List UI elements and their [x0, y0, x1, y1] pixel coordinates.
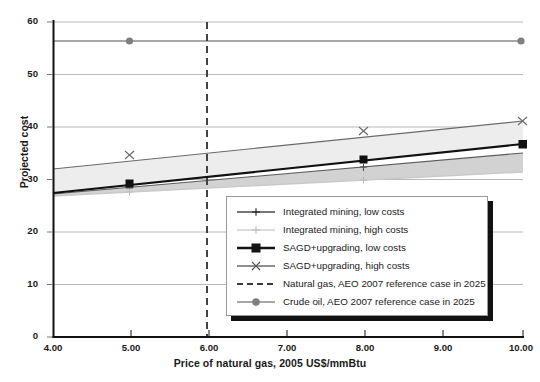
legend-key-line-square-black-icon	[235, 241, 277, 255]
legend-item-sagd-upgrading-low[interactable]: SAGD+upgrading, low costs	[227, 239, 487, 257]
legend-item-label: Natural gas, AEO 2007 reference case in …	[283, 279, 486, 289]
legend-item-label: Integrated mining, high costs	[283, 225, 408, 235]
legend-key-line-x-gray-icon	[235, 259, 277, 273]
series-crude-oil-reference	[53, 37, 525, 44]
legend-key-line-plus-light-icon	[235, 223, 277, 237]
y-axis-ticks	[47, 22, 53, 337]
legend-item-label: Crude oil, AEO 2007 reference case in 20…	[283, 297, 475, 307]
legend-item-integrated-mining-high[interactable]: Integrated mining, high costs	[227, 221, 487, 239]
y-tick-label-20: 20	[10, 225, 38, 236]
legend-key-line-plus-dark-icon	[235, 205, 277, 219]
x-tick-label-5: 5.00	[106, 342, 156, 353]
legend-key-line-dashed-icon	[235, 277, 277, 291]
x-tick-label-9: 9.00	[418, 342, 468, 353]
chart-figure: 60 50 40 30 20 10 0 4.00 5.00 6.00 7.00 …	[0, 0, 540, 382]
y-tick-label-60: 60	[10, 15, 38, 26]
legend-item-natural-gas-reference[interactable]: Natural gas, AEO 2007 reference case in …	[227, 275, 487, 293]
x-axis-title: Price of natural gas, 2005 US$/mmBtu	[0, 357, 540, 369]
legend-item-sagd-upgrading-high[interactable]: SAGD+upgrading, high costs	[227, 257, 487, 275]
chart-legend: Integrated mining, low costs Integrated …	[226, 196, 488, 316]
x-tick-label-4: 4.00	[28, 342, 78, 353]
x-axis-ticks	[131, 330, 523, 337]
legend-item-crude-oil-reference[interactable]: Crude oil, AEO 2007 reference case in 20…	[227, 293, 487, 311]
chart-plot-area	[0, 0, 540, 382]
legend-item-label: SAGD+upgrading, high costs	[283, 261, 410, 271]
x-tick-label-10: 10.00	[496, 342, 540, 353]
legend-item-label: SAGD+upgrading, low costs	[283, 243, 406, 253]
x-tick-label-7: 7.00	[262, 342, 312, 353]
x-tick-label-6: 6.00	[184, 342, 234, 353]
legend-item-integrated-mining-low[interactable]: Integrated mining, low costs	[227, 203, 487, 221]
y-axis-title: Projected cost	[18, 102, 30, 202]
y-tick-label-50: 50	[10, 68, 38, 79]
y-tick-label-10: 10	[10, 278, 38, 289]
x-tick-label-8: 8.00	[340, 342, 390, 353]
legend-item-label: Integrated mining, low costs	[283, 207, 404, 217]
y-tick-label-0: 0	[10, 330, 38, 341]
legend-key-line-circle-gray-icon	[235, 295, 277, 309]
